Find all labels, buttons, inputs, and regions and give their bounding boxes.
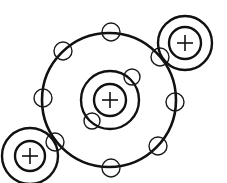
top-right-atom	[158, 16, 212, 70]
plus-charge-icon	[22, 148, 38, 164]
atom-bonding-diagram	[0, 0, 227, 183]
plus-charge-icon	[102, 92, 118, 108]
central-atom	[34, 23, 184, 177]
plus-charge-icon	[177, 35, 193, 51]
bottom-left-atom	[2, 128, 58, 183]
electron	[84, 113, 100, 129]
